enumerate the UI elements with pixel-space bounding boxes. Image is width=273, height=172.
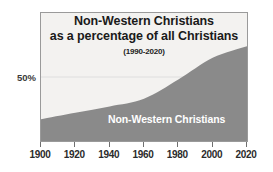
- y-axis-label-50-percent: 50%: [10, 72, 36, 83]
- x-axis-tick-2020: [246, 142, 247, 147]
- x-axis-tick-1980: [177, 142, 178, 147]
- x-axis-tick-1900: [40, 142, 41, 147]
- x-axis-tick-1920: [74, 142, 75, 147]
- x-axis-label-2020: 2020: [226, 149, 266, 160]
- series-label-non-western-christians: Non-Western Christians: [108, 113, 225, 125]
- x-axis-labels: 1900192019401960198020002020: [0, 149, 273, 165]
- x-axis-tick-1940: [109, 142, 110, 147]
- chart-figure: Non-Western Christians as a percentage o…: [0, 0, 273, 172]
- x-axis-ticks: [40, 142, 248, 147]
- x-axis-tick-2000: [212, 142, 213, 147]
- non-western-christians-area: [41, 46, 247, 141]
- x-axis-tick-1960: [143, 142, 144, 147]
